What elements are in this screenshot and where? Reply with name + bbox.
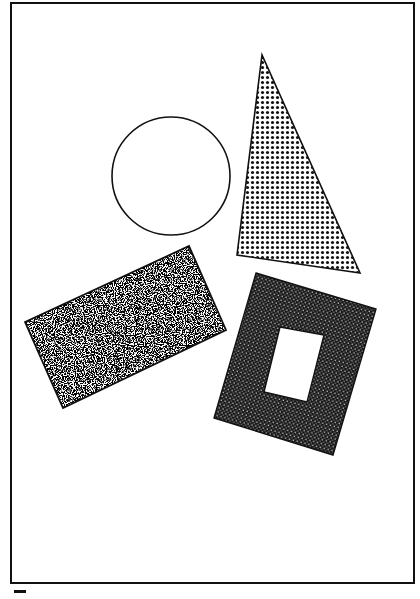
- figure-frame: [11, 3, 414, 583]
- figure-canvas: [0, 0, 420, 599]
- corner-mark: [14, 590, 26, 593]
